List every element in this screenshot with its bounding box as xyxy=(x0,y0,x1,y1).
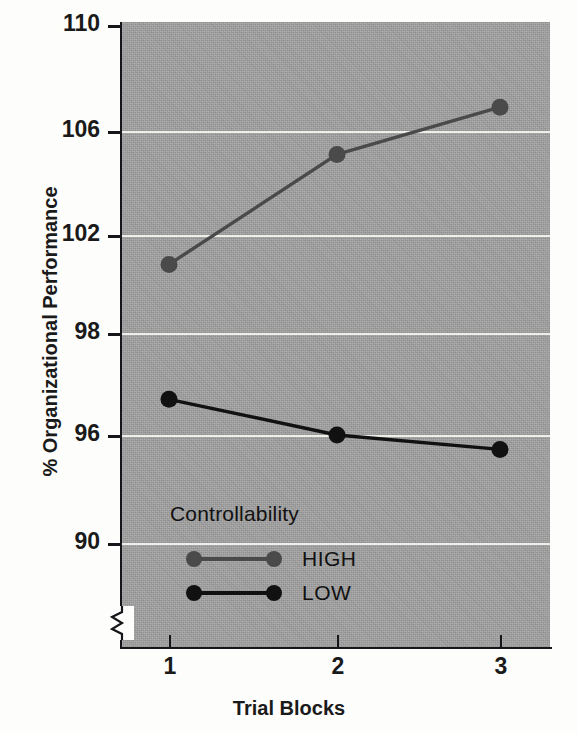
plot-area: Controllability HIGH LOW xyxy=(122,22,550,648)
y-axis-tick xyxy=(108,25,122,28)
x-axis-tick-label: 3 xyxy=(481,655,521,678)
y-axis-tick-label-text: 110 xyxy=(44,12,100,35)
legend-line-icon xyxy=(194,557,274,561)
y-axis-tick xyxy=(108,131,122,134)
series-line-high xyxy=(169,107,500,264)
y-axis-tick xyxy=(108,435,122,438)
y-axis-tick xyxy=(108,333,122,336)
y-axis-title: % Organizational Performance xyxy=(39,52,62,612)
data-point-low-2[interactable] xyxy=(329,427,346,444)
legend-label-low: LOW xyxy=(302,581,351,605)
axis-break-zigzag-icon xyxy=(110,606,134,640)
x-axis-line xyxy=(120,647,552,649)
legend-item-high[interactable]: HIGH xyxy=(170,542,420,576)
chart-legend: Controllability HIGH LOW xyxy=(170,502,420,610)
legend-item-low[interactable]: LOW xyxy=(170,576,420,610)
legend-swatch-high xyxy=(186,548,282,570)
data-point-high-2[interactable] xyxy=(329,146,346,163)
chart-figure: Controllability HIGH LOW xyxy=(0,0,578,733)
legend-swatch-low xyxy=(186,582,282,604)
legend-label-high: HIGH xyxy=(302,547,357,571)
legend-line-icon xyxy=(194,591,274,595)
x-axis-tick xyxy=(500,635,502,649)
data-point-high-1[interactable] xyxy=(161,256,178,273)
x-axis-tick xyxy=(337,635,339,649)
x-axis-tick-label: 2 xyxy=(318,655,358,678)
legend-marker-right-icon xyxy=(266,551,282,567)
data-point-high-3[interactable] xyxy=(492,99,509,116)
legend-marker-right-icon xyxy=(266,585,282,601)
x-axis-tick xyxy=(169,635,171,649)
data-point-low-3[interactable] xyxy=(492,441,509,458)
x-axis-tick-label: 1 xyxy=(150,655,190,678)
legend-title: Controllability xyxy=(170,502,420,526)
y-axis-tick xyxy=(108,235,122,238)
data-point-low-1[interactable] xyxy=(161,391,178,408)
y-axis-tick xyxy=(108,543,122,546)
x-axis-title: Trial Blocks xyxy=(0,697,578,720)
